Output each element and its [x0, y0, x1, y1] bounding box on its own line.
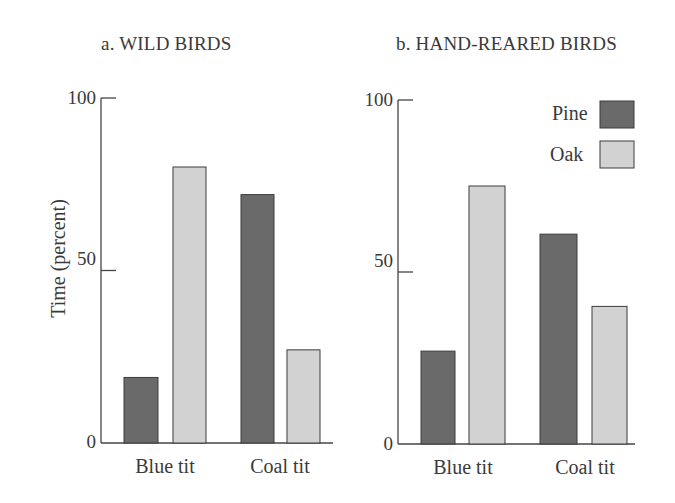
bar-oak-blue-tit [469, 186, 505, 444]
bar-oak-coal-tit [287, 350, 320, 443]
bar-pine-blue-tit [421, 351, 455, 444]
legend-swatch-pine [600, 101, 634, 128]
legend-swatch-oak [600, 141, 634, 168]
bar-pine-blue-tit [124, 377, 158, 443]
bar-oak-blue-tit [173, 167, 206, 443]
bar-pine-coal-tit [540, 234, 577, 444]
bar-oak-coal-tit [592, 306, 627, 444]
plot-area [0, 0, 675, 503]
figure: a. WILD BIRDS Time (percent) 100 50 0 Bl… [0, 0, 675, 503]
bar-pine-coal-tit [241, 195, 274, 443]
